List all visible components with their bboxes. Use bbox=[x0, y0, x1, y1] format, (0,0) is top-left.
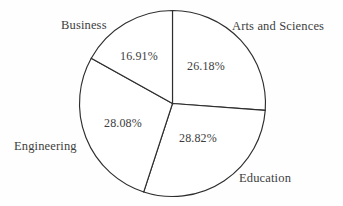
pie-value-arts-and-sciences: 26.18% bbox=[187, 60, 225, 72]
pie-chart-figure: Business Arts and Sciences Engineering E… bbox=[0, 0, 343, 206]
pie-label-arts-and-sciences: Arts and Sciences bbox=[232, 20, 324, 33]
pie-label-business: Business bbox=[61, 19, 107, 32]
pie-slices bbox=[79, 11, 265, 197]
pie-label-engineering: Engineering bbox=[14, 140, 77, 153]
pie-value-engineering: 28.08% bbox=[104, 117, 142, 129]
pie-value-business: 16.91% bbox=[120, 50, 158, 62]
pie-label-education: Education bbox=[239, 172, 291, 185]
pie-value-education: 28.82% bbox=[179, 132, 217, 144]
